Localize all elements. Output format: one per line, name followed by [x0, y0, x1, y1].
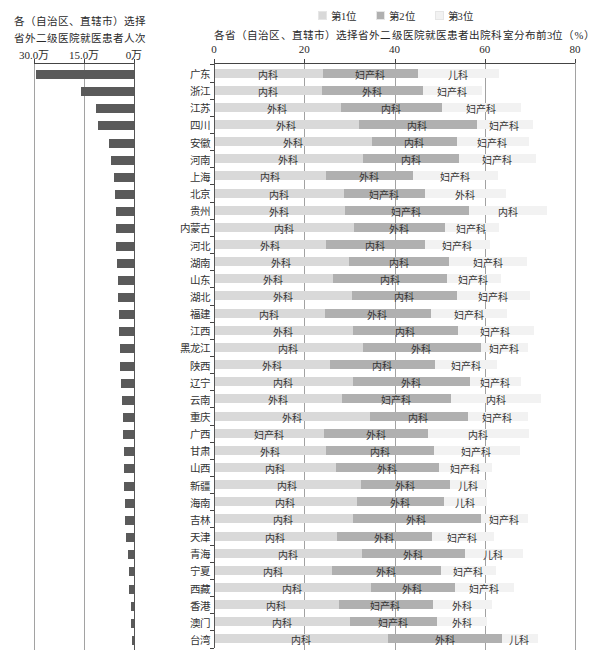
segment-label-rank3: 妇产科: [461, 443, 491, 458]
segment-label-rank3: 妇产科: [442, 238, 472, 253]
row-label: 辽宁: [190, 374, 210, 389]
segment-label-rank2: 外科: [395, 478, 415, 493]
segment-label-rank1: 内科: [258, 83, 278, 98]
left-bar: [126, 533, 134, 542]
right-row-tick: [210, 356, 214, 357]
right-row-tick: [210, 390, 214, 391]
segment-label-rank3: 儿科: [448, 66, 468, 81]
right-row-tick: [210, 510, 214, 511]
segment-label-rank1: 内科: [265, 460, 285, 475]
segment-label-rank1: 内科: [278, 546, 298, 561]
left-bar: [125, 516, 134, 525]
row-label: 吉林: [190, 511, 210, 526]
segment-label-rank3: 内科: [486, 392, 506, 407]
row-label: 陕西: [190, 357, 210, 372]
segment-label-rank1: 内科: [291, 632, 311, 647]
segment-label-rank1: 妇产科: [254, 426, 284, 441]
segment-label-rank3: 妇产科: [480, 323, 510, 338]
row-label: 台湾: [190, 631, 210, 646]
segment-label-rank3: 儿科: [458, 478, 478, 493]
segment-label-rank1: 内科: [266, 598, 286, 613]
segment-label-rank2: 外科: [376, 563, 396, 578]
segment-label-rank1: 内科: [274, 220, 294, 235]
right-row-tick: [210, 613, 214, 614]
segment-label-rank3: 妇产科: [453, 563, 483, 578]
row-label: 上海: [190, 168, 210, 183]
segment-label-rank2: 妇产科: [369, 186, 399, 201]
segment-label-rank2: 外科: [402, 581, 422, 596]
segment-label-rank2: 内科: [372, 358, 392, 373]
right-row-tick: [210, 493, 214, 494]
row-label: 河南: [190, 151, 210, 166]
segment-label-rank3: 外科: [455, 186, 475, 201]
segment-label-rank1: 外科: [271, 255, 291, 270]
segment-label-rank3: 儿科: [455, 495, 475, 510]
segment-label-rank2: 内科: [395, 323, 415, 338]
segment-label-rank1: 内科: [275, 495, 295, 510]
segment-label-rank1: 内科: [259, 306, 279, 321]
right-chart-title: 各省（自治区、直辖市）选择省外二级医院就医患者出院科室分布前3位（%）: [214, 27, 576, 42]
segment-label-rank2: 外科: [374, 529, 394, 544]
right-row-tick: [210, 339, 214, 340]
segment-label-rank1: 外科: [273, 289, 293, 304]
row-label: 广西: [190, 426, 210, 441]
segment-label-rank2: 外科: [435, 632, 455, 647]
right-row-tick: [210, 562, 214, 563]
segment-label-rank2: 外科: [389, 220, 409, 235]
right-row-tick: [210, 527, 214, 528]
legend-label-rank1: 第1位: [331, 8, 356, 23]
right-row-tick: [210, 167, 214, 168]
left-bar: [109, 139, 134, 148]
right-axis-tick-label: 0: [211, 43, 217, 55]
left-bar: [123, 413, 134, 422]
segment-label-rank2: 妇产科: [370, 598, 400, 613]
row-label: 河北: [190, 237, 210, 252]
segment-label-rank2: 妇产科: [391, 203, 421, 218]
segment-label-rank2: 外科: [359, 169, 379, 184]
right-row-tick: [210, 133, 214, 134]
left-gridline: [34, 63, 35, 650]
segment-label-rank2: 内科: [381, 100, 401, 115]
left-bar: [36, 70, 134, 79]
segment-label-rank2: 外科: [411, 340, 431, 355]
row-label: 新疆: [190, 477, 210, 492]
segment-label-rank3: 妇产科: [482, 152, 512, 167]
legend-swatch-rank2: [377, 12, 384, 19]
row-label: 江苏: [190, 100, 210, 115]
right-gridline: [304, 63, 305, 650]
legend-swatch-rank3: [436, 12, 443, 19]
segment-label-rank1: 内科: [282, 581, 302, 596]
right-row-tick: [210, 442, 214, 443]
segment-label-rank1: 内科: [278, 340, 298, 355]
segment-label-rank1: 内科: [273, 512, 293, 527]
segment-label-rank2: 妇产科: [381, 392, 411, 407]
segment-label-rank2: 外科: [362, 83, 382, 98]
row-label: 四川: [190, 117, 210, 132]
left-bar: [114, 173, 134, 182]
left-bar: [119, 310, 134, 319]
segment-label-rank2: 内科: [407, 117, 427, 132]
segment-label-rank1: 外科: [278, 152, 298, 167]
left-bar: [131, 619, 134, 628]
row-label: 湖南: [190, 254, 210, 269]
segment-label-rank3: 儿科: [509, 632, 529, 647]
segment-label-rank3: 内科: [468, 426, 488, 441]
left-bar: [132, 636, 134, 645]
left-bar: [124, 447, 134, 456]
right-row-tick: [210, 579, 214, 580]
segment-label-rank3: 妇产科: [489, 340, 519, 355]
left-bar: [96, 104, 134, 113]
segment-label-rank1: 内科: [258, 66, 278, 81]
legend-label-rank3: 第3位: [448, 8, 473, 23]
segment-label-rank3: 妇产科: [489, 512, 519, 527]
left-bar: [119, 327, 134, 336]
row-label: 安徽: [190, 134, 210, 149]
segment-label-rank3: 内科: [498, 203, 518, 218]
left-bar: [116, 242, 134, 251]
segment-label-rank3: 妇产科: [458, 272, 488, 287]
row-label: 浙江: [190, 83, 210, 98]
right-row-tick: [210, 253, 214, 254]
left-axis-tick-label: 0万: [126, 46, 143, 62]
segment-label-rank2: 外科: [390, 495, 410, 510]
row-label: 澳门: [190, 614, 210, 629]
